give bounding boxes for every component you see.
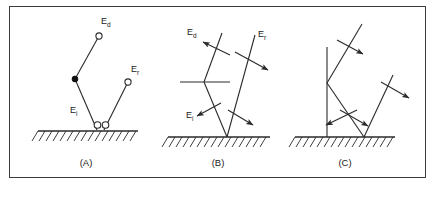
caption-a: (A) bbox=[80, 157, 93, 168]
ray-ei-b bbox=[204, 82, 227, 137]
label-er-a: Er bbox=[131, 64, 140, 76]
ray-reflected-c bbox=[364, 75, 393, 137]
ray-ei-a bbox=[75, 79, 97, 130]
ground-hatching-a bbox=[32, 131, 136, 141]
filled-dot-bend-a bbox=[72, 76, 78, 82]
transverse-arrow-reflected-b bbox=[228, 110, 253, 125]
ray-ed-b bbox=[204, 33, 222, 82]
open-circle-er-a bbox=[125, 79, 131, 85]
label-er-b: Er bbox=[258, 29, 267, 41]
open-circle-ed-a bbox=[96, 33, 102, 39]
label-ei-a: Ei bbox=[70, 105, 77, 117]
transverse-arrow-ed-b bbox=[203, 42, 230, 55]
ray-down-c bbox=[327, 83, 364, 137]
panel-a: Ed Er Ei (A) bbox=[32, 16, 140, 168]
label-ed-a: Ed bbox=[101, 16, 111, 28]
open-circle-vertex-left-a bbox=[94, 122, 101, 129]
caption-b: (B) bbox=[212, 157, 225, 168]
label-ei-b: Ei bbox=[186, 110, 193, 122]
ground-hatching-c bbox=[289, 137, 393, 147]
transverse-arrow-lower-right-c bbox=[340, 110, 368, 126]
ray-incident-c bbox=[327, 24, 362, 83]
caption-c: (C) bbox=[338, 157, 351, 168]
ray-ed-a bbox=[75, 36, 99, 79]
figure-canvas: Ed Er Ei (A) bbox=[0, 0, 442, 198]
label-ed-b: Ed bbox=[187, 27, 197, 39]
open-circle-vertex-right-a bbox=[102, 122, 109, 129]
panel-c: (C) bbox=[289, 24, 409, 168]
transverse-arrow-er-b bbox=[235, 52, 268, 70]
ground-hatching-b bbox=[162, 137, 266, 147]
panel-b: Ed Er Ei (B) bbox=[162, 27, 270, 168]
transverse-arrow-upper-c bbox=[337, 40, 363, 54]
transverse-arrow-right-c bbox=[381, 82, 409, 98]
ray-er-b bbox=[227, 35, 255, 137]
figure-root: Ed Er Ei (A) bbox=[0, 0, 442, 198]
